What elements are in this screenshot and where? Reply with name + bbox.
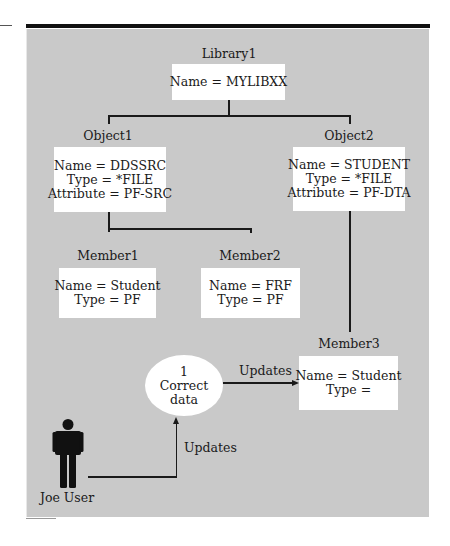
- top-rule: [26, 24, 430, 28]
- connector-library-down: [228, 100, 230, 115]
- connector-to-object1: [108, 115, 110, 124]
- member2-name: Name = FRF: [209, 279, 292, 293]
- library-title: Library1: [202, 46, 257, 61]
- object1-title: Object1: [83, 128, 133, 143]
- object2-name: Name = STUDENT: [288, 158, 410, 172]
- member2-box: Name = FRF Type = PF: [201, 268, 300, 318]
- person-icon: [52, 419, 84, 489]
- flow-user-to-process-vertical: [176, 424, 178, 477]
- member2-type: Type = PF: [217, 293, 283, 307]
- process-number: 1: [180, 365, 188, 379]
- object1-type: Type = *FILE: [67, 173, 154, 187]
- connector-library-horizontal: [108, 115, 350, 117]
- member3-name: Name = Student: [295, 369, 401, 383]
- object2-box: Name = STUDENT Type = *FILE Attribute = …: [293, 147, 405, 211]
- connector-to-object2: [349, 115, 351, 124]
- member1-name: Name = Student: [54, 279, 160, 293]
- member3-type: Type =: [326, 383, 371, 397]
- object1-name: Name = DDSSRC: [54, 159, 166, 173]
- flow-user-to-process-arrowhead: [173, 417, 179, 424]
- member3-title: Member3: [318, 336, 379, 351]
- object2-attribute: Attribute = PF-DTA: [287, 186, 410, 200]
- flow-user-to-process-label: Updates: [184, 440, 237, 455]
- connector-object2-to-member3: [349, 211, 351, 332]
- library-box: Name = MYLIBXX: [172, 64, 285, 100]
- object2-title: Object2: [324, 128, 374, 143]
- process-correct-data: 1 Correct data: [145, 355, 223, 416]
- flow-process-to-member3-label: Updates: [239, 363, 292, 378]
- member3-box: Name = Student Type =: [299, 356, 398, 410]
- margin-tick: [0, 25, 12, 26]
- object1-attribute: Attribute = PF-SRC: [48, 187, 172, 201]
- flow-process-to-member3-arrowhead: [292, 380, 299, 386]
- flow-user-to-process-horizontal: [88, 476, 177, 478]
- connector-to-member2: [250, 228, 252, 233]
- library-name: Name = MYLIBXX: [170, 75, 287, 89]
- connector-object1-horizontal: [108, 228, 251, 230]
- member2-title: Member2: [219, 248, 280, 263]
- member1-type: Type = PF: [74, 293, 140, 307]
- object2-type: Type = *FILE: [306, 172, 393, 186]
- flow-process-to-member3-line: [223, 382, 292, 384]
- process-label: Correct data: [145, 379, 223, 407]
- member1-box: Name = Student Type = PF: [59, 268, 156, 318]
- actor-label: Joe User: [40, 490, 94, 505]
- bottom-rule: [26, 518, 56, 519]
- object1-box: Name = DDSSRC Type = *FILE Attribute = P…: [54, 147, 166, 212]
- member1-title: Member1: [77, 248, 138, 263]
